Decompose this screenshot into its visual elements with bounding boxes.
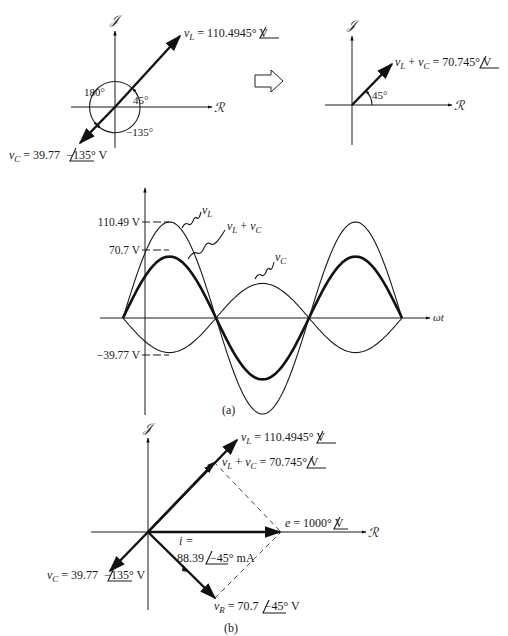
vC-leader: [255, 262, 274, 279]
tick-label-vC-trough: −39.77 V: [97, 349, 141, 361]
ac-circuit-phasor-figure: 𝒥 ℛ 180° 45° −135° vL = 110.4945° V vC =…: [0, 0, 508, 636]
dashed-construction-line: [215, 532, 281, 598]
vC-phasor: [110, 532, 148, 571]
angle-45-label: 45°: [372, 89, 387, 101]
vL-curve-label: vL: [202, 203, 212, 219]
dashed-construction-line: [214, 462, 281, 532]
tick-label-sum-peak: 70.7 V: [109, 244, 141, 256]
phasor-diagram-after: 𝒥 ℛ 45° vL + vC = 70.745° V: [325, 17, 499, 145]
vL-label: vL = 110.4945° V: [241, 430, 325, 446]
vL-plus-vC-label: vL + vC = 70.745° V: [395, 55, 492, 71]
vL-label: vL = 110.4945° V: [184, 26, 268, 42]
vC-curve-label: vC: [275, 250, 287, 266]
tick-label-vL-peak: 110.49 V: [98, 216, 141, 228]
angle-45-label: 45°: [133, 94, 148, 106]
imaginary-axis-label: 𝒥: [142, 420, 157, 435]
caption-a: (a): [222, 403, 235, 417]
imaginary-axis-label: 𝒥: [346, 17, 361, 32]
caption-b: (b): [224, 621, 238, 635]
vL-plus-vC-leader: [188, 230, 225, 259]
phasor-diagram-full: 𝒥 ℛ vL = 110.4945° V vL + vC = 70.745° V…: [47, 420, 380, 635]
real-axis-label: ℛ: [368, 525, 380, 540]
vL-plus-vC-label: vL + vC = 70.745° V: [222, 455, 319, 471]
imaginary-axis-label: 𝒥: [109, 12, 124, 27]
transform-arrow-icon: [255, 70, 283, 92]
waveform-chart: ωt 110.49 V 70.7 V −39.77 V vL vL + vC v…: [97, 188, 445, 417]
vL-plus-vC-phasor: [148, 465, 212, 532]
phasor-diagram-before: 𝒥 ℛ 180° 45° −135° vL = 110.4945° V vC =…: [9, 12, 279, 164]
i-phasor-arrowhead: [182, 565, 189, 572]
time-axis-label: ωt: [433, 311, 445, 323]
vL-plus-vC-curve-label: vL + vC: [227, 219, 262, 235]
vC-label: vC = 39.77−135° V: [47, 568, 145, 584]
angle-minus-135-label: −135°: [126, 126, 153, 138]
vC-label: vC = 39.77−135° V: [9, 148, 107, 164]
real-axis-label: ℛ: [214, 100, 226, 115]
angle-180-label: 180°: [84, 86, 105, 98]
i-label-line1: i =: [179, 534, 193, 548]
i-label-line2: 88.39−45° mA: [177, 551, 255, 565]
vL-leader: [182, 212, 201, 228]
real-axis-label: ℛ: [454, 98, 466, 113]
vR-label: vR = 70.7−45° V: [214, 599, 300, 615]
figure-canvas: 𝒥 ℛ 180° 45° −135° vL = 110.4945° V vC =…: [0, 0, 508, 636]
